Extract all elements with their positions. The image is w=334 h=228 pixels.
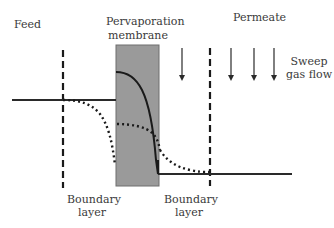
sweep-label-line1: Sweep — [287, 55, 331, 68]
left-boundary-label-line2: layer — [67, 206, 117, 219]
permeate-label: Permeate — [233, 11, 286, 24]
pervaporation-membrane — [116, 45, 159, 186]
right-boundary-label-line1: Boundary — [164, 193, 214, 206]
sweep-arrow-3 — [251, 48, 257, 81]
permeate-boundary-dotted-curve — [160, 150, 210, 172]
sweep-label-line2: gas flow — [284, 68, 334, 81]
membrane-label-line1: Pervaporation — [106, 15, 170, 28]
sweep-arrow-2 — [228, 48, 234, 81]
feed-boundary-dotted-curve — [63, 100, 115, 165]
sweep-arrow-4 — [271, 48, 277, 81]
feed-label: Feed — [14, 18, 41, 31]
left-boundary-label-line1: Boundary — [67, 193, 117, 206]
right-boundary-label-line2: layer — [164, 206, 214, 219]
membrane-label-line2: membrane — [106, 29, 170, 42]
sweep-arrow-1 — [179, 48, 185, 81]
